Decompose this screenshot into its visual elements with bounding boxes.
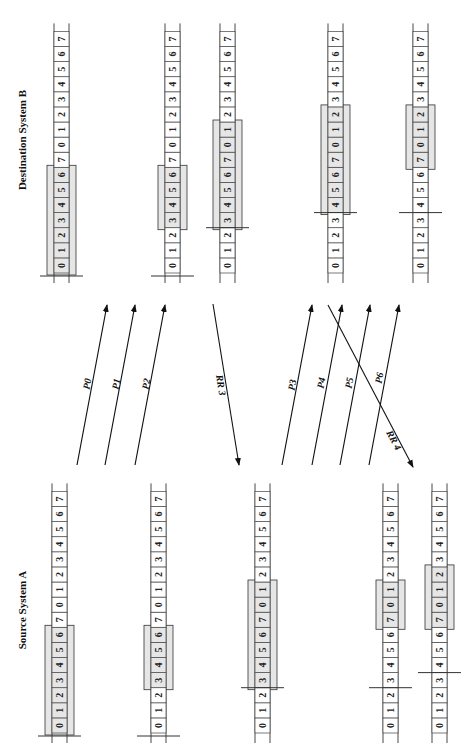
sequence-number: 1 (167, 248, 178, 253)
message-arrows: P0P1P2RR 3P3P4P5P6RR 4 (77, 304, 413, 467)
sequence-number: 5 (167, 67, 178, 72)
sequence-number: 1 (54, 587, 65, 592)
arrow-label: P2 (140, 378, 153, 391)
sequence-number: 3 (222, 97, 233, 102)
sequence-number: 1 (257, 708, 268, 713)
arrow-label: P6 (373, 372, 386, 385)
sequence-number: 0 (153, 602, 164, 607)
sequence-number: 1 (56, 248, 67, 253)
sequence-number: 0 (54, 602, 65, 607)
system-labels: Destination System BSource System A (16, 89, 28, 649)
sequence-number: 7 (434, 617, 445, 622)
sequence-number: 3 (167, 97, 178, 102)
sequence-number: 0 (56, 263, 67, 268)
sequence-number: 2 (385, 693, 396, 698)
sequence-number: 3 (56, 218, 67, 223)
sequence-number: 3 (153, 557, 164, 562)
sequence-number: 5 (153, 527, 164, 532)
sequence-number: 6 (385, 512, 396, 517)
sequence-number: 0 (257, 723, 268, 728)
sequence-number: 7 (153, 617, 164, 622)
source-strips: 0123456701234567012345670123456701234567… (38, 483, 461, 743)
sequence-number: 4 (385, 663, 396, 668)
sequence-number: 3 (257, 678, 268, 683)
sequence-number: 4 (153, 542, 164, 547)
sequence-number: 0 (385, 723, 396, 728)
sequence-number: 3 (54, 557, 65, 562)
sequence-number: 6 (222, 172, 233, 177)
source-strip-A4: 0123456701234567 (369, 483, 412, 743)
sequence-number: 5 (415, 187, 426, 192)
sequence-number: 1 (330, 248, 341, 253)
sequence-number: 1 (222, 127, 233, 132)
sequence-number: 7 (434, 496, 445, 501)
sequence-number: 2 (415, 112, 426, 117)
sequence-number: 3 (54, 678, 65, 683)
message-p0: P0 (77, 305, 107, 465)
sequence-number: 4 (56, 82, 67, 87)
sequence-number: 2 (330, 233, 341, 238)
sequence-number: 3 (415, 218, 426, 223)
sequence-number: 5 (222, 67, 233, 72)
message-p4: P4 (312, 305, 342, 465)
sequence-number: 1 (385, 708, 396, 713)
sequence-number: 6 (434, 632, 445, 637)
sequence-number: 2 (434, 572, 445, 577)
sequence-number: 3 (222, 218, 233, 223)
sequence-number: 6 (415, 52, 426, 57)
sequence-number: 2 (153, 693, 164, 698)
sequence-number: 3 (167, 218, 178, 223)
sequence-number: 3 (434, 557, 445, 562)
sequence-number: 6 (153, 632, 164, 637)
sequence-number: 1 (153, 587, 164, 592)
sequence-number: 1 (434, 708, 445, 713)
sequence-number: 6 (56, 52, 67, 57)
message-p5: P5 (340, 305, 370, 465)
sequence-number: 6 (153, 512, 164, 517)
sequence-number: 6 (330, 52, 341, 57)
sequence-number: 3 (415, 97, 426, 102)
sequence-number: 7 (385, 617, 396, 622)
sequence-number: 2 (54, 693, 65, 698)
sequence-number: 4 (434, 663, 445, 668)
sequence-number: 1 (257, 587, 268, 592)
sequence-number: 6 (434, 512, 445, 517)
sequence-number: 6 (385, 632, 396, 637)
sequence-number: 4 (257, 542, 268, 547)
sequence-number: 1 (56, 127, 67, 132)
sequence-number: 0 (415, 263, 426, 268)
sequence-number: 5 (415, 67, 426, 72)
sequence-number: 2 (222, 233, 233, 238)
arrow-label: P3 (286, 379, 299, 392)
sequence-number: 3 (257, 557, 268, 562)
sequence-number: 1 (330, 127, 341, 132)
sequence-number: 4 (54, 663, 65, 668)
sequence-number: 0 (167, 142, 178, 147)
arrow-label: P1 (110, 378, 123, 391)
sequence-number: 6 (54, 632, 65, 637)
sequence-number: 0 (434, 602, 445, 607)
sequence-number: 4 (54, 542, 65, 547)
sequence-number: 2 (222, 112, 233, 117)
sequence-number: 6 (222, 52, 233, 57)
message-rr-3: RR 3 (213, 304, 239, 465)
arrow-label: P0 (81, 378, 94, 391)
sequence-number: 4 (385, 542, 396, 547)
source-system-label: Source System A (16, 571, 28, 650)
message-p2: P2 (135, 305, 165, 465)
sequence-number: 2 (56, 233, 67, 238)
destination-strip-B3: 0123456701234567 (206, 23, 249, 283)
source-strip-A1: 0123456701234567 (38, 483, 81, 743)
sequence-number: 7 (330, 157, 341, 162)
arrow-label: RR 3 (214, 373, 228, 396)
sequence-number: 4 (167, 82, 178, 87)
sequence-number: 0 (415, 142, 426, 147)
sequence-number: 4 (222, 203, 233, 208)
sequence-number: 7 (257, 617, 268, 622)
arrow-label: P5 (343, 377, 356, 390)
sequence-number: 3 (385, 557, 396, 562)
sequence-number: 5 (56, 187, 67, 192)
sequence-number: 3 (434, 678, 445, 683)
sequence-number: 3 (330, 218, 341, 223)
sequence-number: 1 (385, 587, 396, 592)
